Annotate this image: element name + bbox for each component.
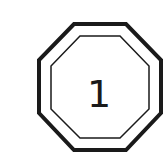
octagon-badge: 1	[0, 0, 164, 163]
badge-number: 1	[87, 72, 111, 116]
